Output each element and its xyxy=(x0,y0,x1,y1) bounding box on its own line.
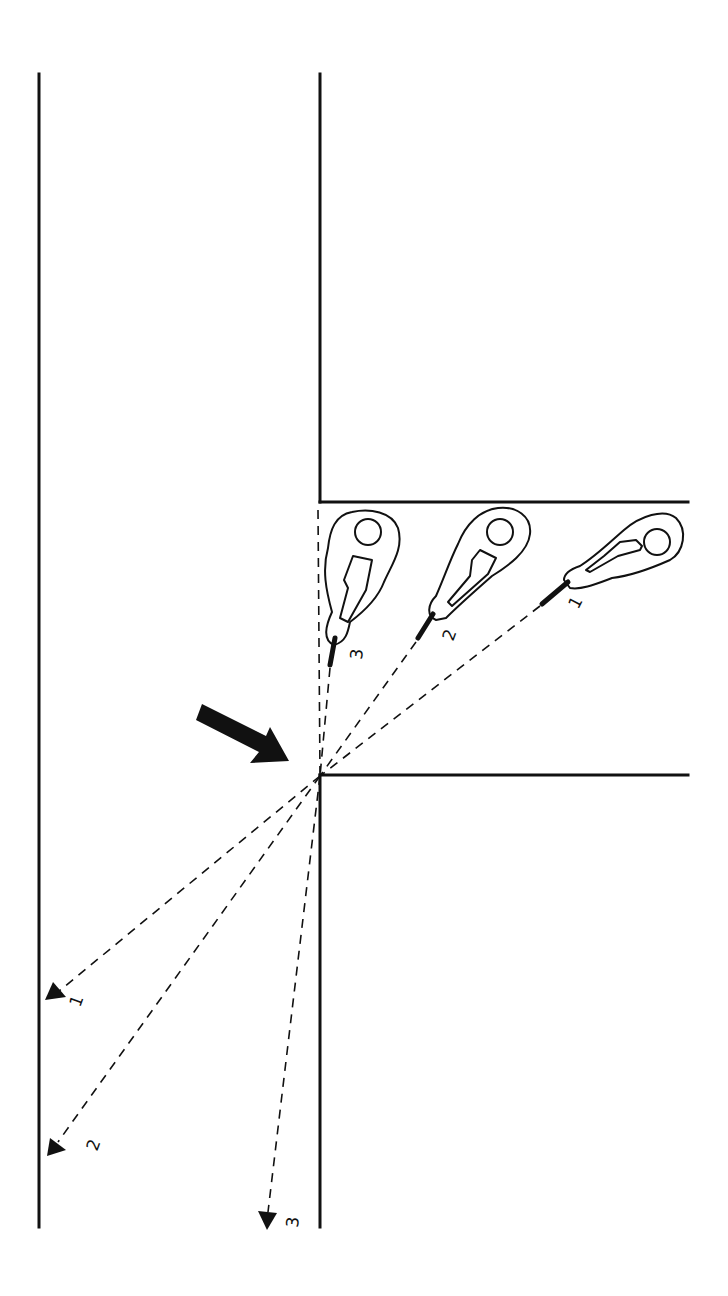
figure-position-2 xyxy=(418,508,530,638)
figure-position-3 xyxy=(325,511,400,665)
sight-line-3 xyxy=(318,510,320,776)
position-label-3: 3 xyxy=(346,648,367,661)
arrowheads xyxy=(45,982,277,1230)
target-label-1: 1 xyxy=(65,992,87,1009)
labels: 1 2 3 1 2 3 xyxy=(65,593,587,1228)
arrowhead-2 xyxy=(47,1138,66,1156)
arrowhead-3 xyxy=(258,1211,277,1230)
diagram-canvas: 1 2 3 1 2 3 xyxy=(0,0,728,1296)
arrowhead-1 xyxy=(45,982,66,1000)
position-label-2: 2 xyxy=(438,626,460,643)
target-label-2: 2 xyxy=(82,1136,104,1153)
sight-line-2 xyxy=(320,642,416,776)
movement-arrow-icon xyxy=(196,704,289,763)
fire-line-3 xyxy=(268,776,320,1212)
sight-line-1 xyxy=(320,606,540,776)
figure-position-1 xyxy=(542,514,683,604)
target-label-3: 3 xyxy=(282,1216,303,1229)
sight-line-3b xyxy=(320,668,330,776)
position-label-1: 1 xyxy=(564,593,587,612)
